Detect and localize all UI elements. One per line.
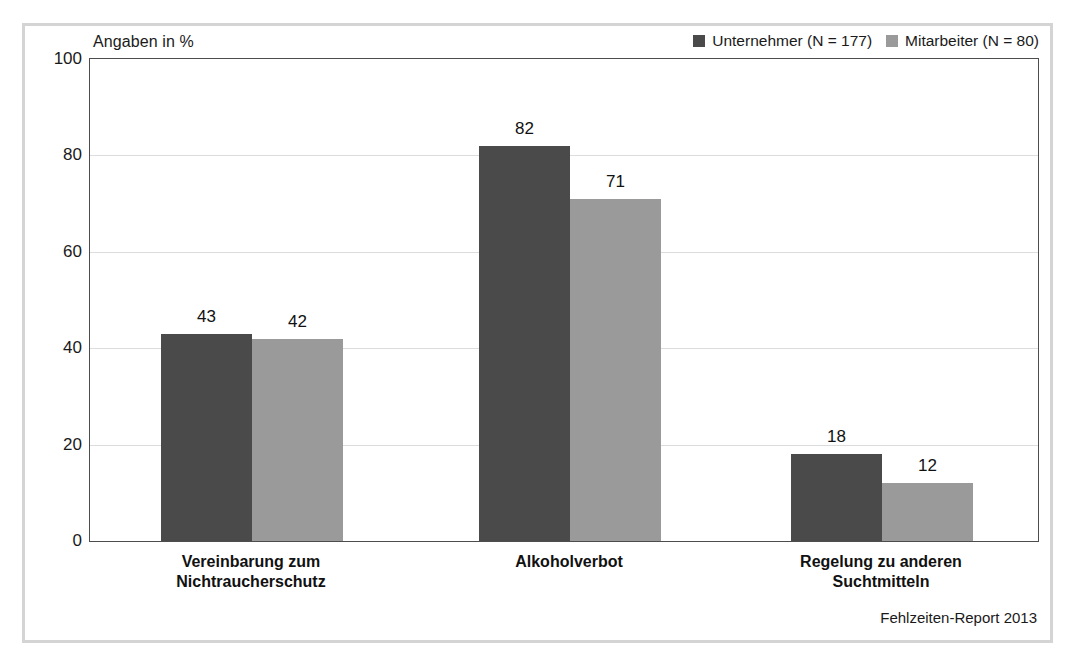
legend-entry-0[interactable]: Unternehmer (N = 177)	[693, 33, 872, 49]
x-category-label-2: Regelung zu anderen Suchtmitteln	[711, 552, 1051, 593]
bar-c0-s1[interactable]	[252, 339, 343, 541]
units-caption: Angaben in %	[93, 33, 194, 51]
legend-label-0: Unternehmer (N = 177)	[712, 33, 872, 49]
y-tick-label-20: 20	[22, 435, 82, 452]
legend-swatch-mitarbeiter	[886, 35, 898, 47]
y-tick-label-80: 80	[22, 146, 82, 163]
bar-c2-s0[interactable]	[791, 454, 882, 541]
bar-value-label-c2-s1: 12	[882, 457, 973, 474]
x-category-label-0: Vereinbarung zum Nichtraucherschutz	[81, 552, 421, 593]
legend-swatch-unternehmer	[693, 35, 705, 47]
bar-value-label-c1-s0: 82	[479, 120, 570, 137]
chart-figure: Angaben in % Unternehmer (N = 177)Mitarb…	[0, 0, 1077, 668]
bar-value-label-c0-s1: 42	[252, 313, 343, 330]
bar-value-label-c0-s0: 43	[161, 308, 252, 325]
bar-c2-s1[interactable]	[882, 483, 973, 541]
y-tick-label-40: 40	[22, 339, 82, 356]
y-tick-label-60: 60	[22, 242, 82, 259]
bar-value-label-c2-s0: 18	[791, 428, 882, 445]
x-category-label-1: Alkoholverbot	[399, 552, 739, 572]
bar-c1-s1[interactable]	[570, 199, 661, 541]
bar-value-label-c1-s1: 71	[570, 173, 661, 190]
source-note: Fehlzeiten-Report 2013	[880, 609, 1037, 626]
y-axis-tick-labels: 020406080100	[16, 58, 82, 540]
chart-legend: Unternehmer (N = 177)Mitarbeiter (N = 80…	[693, 33, 1039, 49]
bar-c1-s0[interactable]	[479, 146, 570, 541]
y-tick-label-0: 0	[22, 532, 82, 549]
legend-label-1: Mitarbeiter (N = 80)	[905, 33, 1039, 49]
legend-entry-1[interactable]: Mitarbeiter (N = 80)	[886, 33, 1039, 49]
bar-c0-s0[interactable]	[161, 334, 252, 541]
y-tick-label-100: 100	[22, 50, 82, 67]
plot-area: 434282711812	[89, 58, 1039, 542]
